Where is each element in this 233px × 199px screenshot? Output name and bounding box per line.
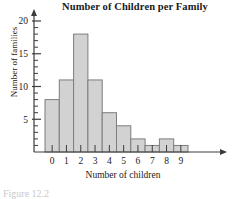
x-axis-arrow — [220, 149, 227, 155]
y-axis-tick-label: 10 — [19, 82, 29, 92]
x-axis-tick-label: 2 — [78, 156, 83, 166]
figure-container: Number of Children per Family Number of … — [0, 0, 233, 199]
bar — [88, 80, 102, 152]
y-axis-tick-label: 15 — [19, 49, 29, 59]
y-axis-tick-label: 20 — [19, 16, 29, 26]
bar — [59, 80, 73, 152]
x-axis-tick-label: 7 — [150, 156, 155, 166]
x-axis-tick-label: 3 — [93, 156, 98, 166]
x-axis-tick-label: 5 — [121, 156, 126, 166]
x-axis-tick-label: 9 — [178, 156, 183, 166]
x-axis-tick-label: 8 — [164, 156, 169, 166]
x-axis-tick-label: 6 — [136, 156, 141, 166]
y-axis-arrow — [31, 9, 37, 16]
bar — [74, 34, 88, 152]
x-axis-tick-label: 0 — [50, 156, 55, 166]
x-axis-tick-label: 4 — [107, 156, 112, 166]
bars-group — [45, 34, 188, 152]
histogram-plot: 51015200123456789 — [0, 0, 233, 199]
bar — [45, 100, 59, 152]
y-axis-tick-label: 5 — [23, 115, 28, 125]
y-axis-major-ticks: 5101520 — [19, 16, 42, 124]
figure-caption: Figure 12.2 — [3, 188, 49, 199]
x-axis-tick-label: 1 — [64, 156, 69, 166]
